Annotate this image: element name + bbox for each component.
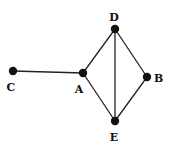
node-label-b: B bbox=[154, 72, 163, 85]
edge-c-a bbox=[13, 71, 83, 73]
node-label-d: D bbox=[109, 11, 119, 24]
node-label-c: C bbox=[7, 81, 16, 94]
edge-a-d bbox=[83, 29, 115, 73]
graph-diagram: CADBE bbox=[0, 0, 171, 147]
nodes bbox=[9, 25, 151, 125]
node-label-e: E bbox=[110, 131, 118, 144]
edge-d-b bbox=[115, 29, 147, 77]
node-labels: CADBE bbox=[7, 11, 164, 144]
node-e bbox=[111, 117, 119, 125]
node-label-a: A bbox=[74, 83, 84, 96]
node-b bbox=[143, 73, 151, 81]
edge-a-e bbox=[83, 73, 115, 121]
node-a bbox=[79, 69, 87, 77]
node-d bbox=[111, 25, 119, 33]
edge-b-e bbox=[115, 77, 147, 121]
node-c bbox=[9, 67, 17, 75]
